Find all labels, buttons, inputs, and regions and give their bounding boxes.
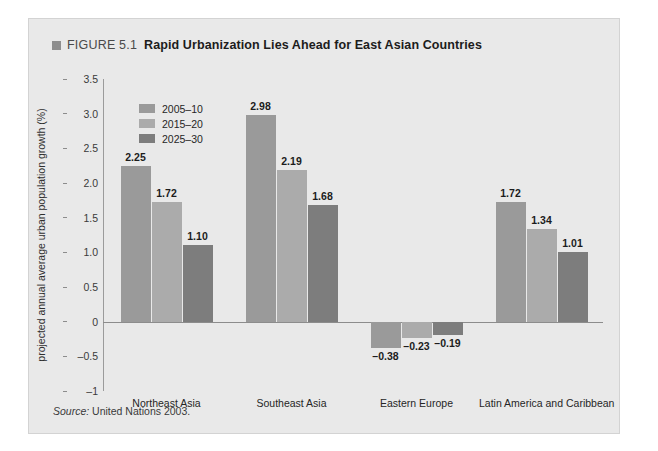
figure-header: FIGURE 5.1 Rapid Urbanization Lies Ahead… (52, 38, 482, 52)
bar[interactable] (371, 322, 401, 348)
bar-value-label: 1.68 (312, 190, 332, 202)
figure-number: FIGURE 5.1 (67, 38, 137, 52)
bar-column: –0.23 (402, 79, 432, 391)
bar-value-label: 1.10 (187, 230, 207, 242)
chart-plot-area: projected annual average urban populatio… (103, 79, 603, 391)
y-axis-tick-label: 0.5 (83, 281, 103, 293)
bar-column: 2.98 (246, 79, 276, 391)
y-axis-tick-label: 3.0 (83, 107, 103, 119)
source-text: United Nations 2003. (89, 405, 190, 417)
y-axis-tick-label: –0.5 (78, 350, 103, 362)
source-label: Source: (53, 405, 89, 417)
bar[interactable] (527, 229, 557, 322)
bar-column: 1.72 (496, 79, 526, 391)
y-axis-tick-mark (63, 287, 67, 288)
bar-column: 2.25 (121, 79, 151, 391)
bar-value-label: 1.34 (531, 214, 551, 226)
bar-value-label: –0.23 (403, 340, 429, 352)
source-note: Source: United Nations 2003. (53, 405, 190, 417)
bar[interactable] (183, 245, 213, 321)
bar[interactable] (277, 170, 307, 322)
y-axis-tick-mark (63, 79, 67, 80)
bar-column: 2.19 (277, 79, 307, 391)
bar-group: 2.982.191.68 (246, 79, 338, 391)
x-axis-category-label: Eastern Europe (354, 397, 479, 409)
bar-group: 2.251.721.10 (121, 79, 213, 391)
bar-value-label: 1.72 (500, 187, 520, 199)
bar[interactable] (558, 252, 588, 322)
y-axis-tick-mark (63, 217, 67, 218)
y-axis-tick-label: –1 (86, 385, 103, 397)
square-marker-icon (52, 41, 61, 50)
bar-column: 1.34 (527, 79, 557, 391)
bar-column: –0.19 (433, 79, 463, 391)
y-axis-tick-mark (63, 148, 67, 149)
bar-value-label: –0.38 (372, 350, 398, 362)
y-axis-tick-mark (63, 321, 67, 322)
y-axis-tick-label: 0 (92, 315, 103, 327)
bar[interactable] (246, 115, 276, 322)
y-axis-tick-mark (63, 391, 67, 392)
bar[interactable] (152, 202, 182, 321)
y-axis-tick-label: 2.5 (83, 142, 103, 154)
bar-column: 1.68 (308, 79, 338, 391)
x-axis-category-label: Southeast Asia (229, 397, 354, 409)
y-axis-tick-label: 1.5 (83, 211, 103, 223)
bar-value-label: 2.98 (250, 100, 270, 112)
y-axis-title: projected annual average urban populatio… (35, 85, 47, 385)
x-axis-category-label: Latin America and Caribbean (479, 397, 604, 409)
bar-value-label: 2.25 (125, 151, 145, 163)
y-axis-tick-label: 2.0 (83, 177, 103, 189)
y-axis-tick-label: 3.5 (83, 73, 103, 85)
bar[interactable] (496, 202, 526, 321)
bar-value-label: 1.72 (156, 187, 176, 199)
figure-panel: FIGURE 5.1 Rapid Urbanization Lies Ahead… (28, 18, 620, 434)
bar-column: 1.10 (183, 79, 213, 391)
bar[interactable] (402, 322, 432, 338)
bar-value-label: 2.19 (281, 155, 301, 167)
bar-column: 1.72 (152, 79, 182, 391)
y-axis-tick-mark (63, 113, 67, 114)
bar-value-label: –0.19 (434, 337, 460, 349)
y-axis-tick-mark (63, 252, 67, 253)
y-axis-tick-label: 1.0 (83, 246, 103, 258)
bar-groups: 2.251.721.10Northeast Asia2.982.191.68So… (104, 79, 603, 391)
y-axis-tick-mark (63, 356, 67, 357)
bar-group: 1.721.341.01 (496, 79, 588, 391)
y-axis-tick-mark (63, 183, 67, 184)
bar[interactable] (308, 205, 338, 321)
bar-group: –0.38–0.23–0.19 (371, 79, 463, 391)
bar-column: 1.01 (558, 79, 588, 391)
bar-column: –0.38 (371, 79, 401, 391)
bar-value-label: 1.01 (562, 237, 582, 249)
page-title: Rapid Urbanization Lies Ahead for East A… (144, 38, 482, 52)
bar[interactable] (433, 322, 463, 335)
bar[interactable] (121, 166, 151, 322)
